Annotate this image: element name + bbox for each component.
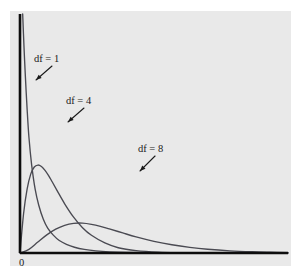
chart-plot-area: df = 1 df = 4 df = 8 0 (0, 0, 302, 279)
annotation-df-1: df = 1 (34, 53, 59, 80)
density-curve-df-4 (20, 165, 288, 253)
annotation-df-8: df = 8 (138, 143, 163, 171)
annotation-label-df-1: df = 1 (34, 53, 59, 64)
annotation-group: df = 1 df = 4 df = 8 (34, 53, 163, 171)
annotation-df-4: df = 4 (66, 95, 92, 122)
density-curve-df-8 (20, 223, 288, 253)
x-axis-origin-label: 0 (19, 257, 24, 268)
annotation-label-df-8: df = 8 (138, 143, 163, 154)
density-curve-df-1 (23, 14, 288, 253)
curve-group (20, 14, 288, 253)
chi-square-distribution-figure: df = 1 df = 4 df = 8 0 (0, 0, 302, 279)
annotation-label-df-4: df = 4 (66, 95, 92, 106)
axis-group (20, 14, 288, 253)
